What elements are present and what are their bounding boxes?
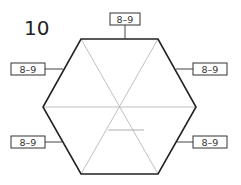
label-lower-left-text: 8–9	[20, 137, 37, 148]
inner-lines	[43, 39, 196, 174]
label-upper-right-text: 8–9	[202, 64, 219, 75]
label-lower-right-text: 8–9	[202, 137, 219, 148]
label-lower-right: 8–9	[193, 136, 227, 148]
label-upper-right: 8–9	[193, 63, 227, 75]
label-top: 8–9	[110, 13, 140, 25]
label-upper-left-text: 8–9	[20, 64, 37, 75]
label-top-text: 8–9	[117, 14, 134, 25]
connectors	[45, 25, 193, 142]
problem-number: 10	[24, 16, 49, 40]
label-lower-left: 8–9	[11, 136, 45, 148]
label-upper-left: 8–9	[11, 63, 45, 75]
hexagon-diagram: 10 8–9 8–9 8–9 8–9 8–9	[0, 0, 241, 185]
